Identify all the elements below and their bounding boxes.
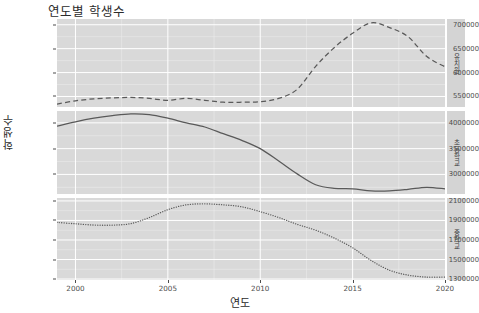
x-tick-mark xyxy=(260,280,261,283)
chart-container: 연도별 학생수 학생수 연도 유치원 초등학교 중학교 200020052010… xyxy=(0,0,479,313)
x-tick-mark xyxy=(353,280,354,283)
y-tick-mark xyxy=(53,174,56,175)
y-tick-mark xyxy=(53,148,56,149)
y-tick-label: 700000 xyxy=(427,21,479,29)
y-tick-label: 2100000 xyxy=(427,197,479,205)
y-tick-label: 1500000 xyxy=(427,256,479,264)
y-tick-label: 1700000 xyxy=(427,236,479,244)
facet-plot-area-2 xyxy=(57,198,445,280)
y-tick-mark xyxy=(53,96,56,97)
x-tick-label: 2000 xyxy=(66,284,84,293)
y-tick-mark xyxy=(53,24,56,25)
x-tick-mark xyxy=(168,280,169,283)
x-tick-mark xyxy=(75,280,76,283)
y-tick-mark xyxy=(53,220,56,221)
y-tick-mark xyxy=(53,72,56,73)
y-tick-label: 1300000 xyxy=(427,275,479,283)
facet-plot-area-0 xyxy=(57,19,445,107)
y-tick-mark xyxy=(53,200,56,201)
y-tick-mark xyxy=(53,259,56,260)
y-tick-mark xyxy=(53,279,56,280)
facet-panel-0 xyxy=(57,19,445,107)
y-tick-label: 3000000 xyxy=(427,170,479,178)
facet-panel-1 xyxy=(57,111,445,194)
series-line-0 xyxy=(57,23,445,104)
facet-panel-2 xyxy=(57,198,445,280)
y-tick-label: 650000 xyxy=(427,45,479,53)
chart-title: 연도별 학생수 xyxy=(48,1,125,20)
x-tick-label: 2020 xyxy=(436,284,454,293)
y-tick-label: 550000 xyxy=(427,92,479,100)
series-line-1 xyxy=(57,114,445,191)
x-tick-label: 2015 xyxy=(343,284,361,293)
y-tick-label: 3500000 xyxy=(427,145,479,153)
series-line-2 xyxy=(57,204,445,277)
x-tick-label: 2010 xyxy=(251,284,269,293)
y-tick-label: 4000000 xyxy=(427,119,479,127)
y-tick-label: 600000 xyxy=(427,69,479,77)
y-tick-mark xyxy=(53,239,56,240)
x-axis-title: 연도 xyxy=(0,294,479,310)
y-tick-mark xyxy=(53,122,56,123)
y-axis-title: 학생수 xyxy=(2,114,16,150)
x-tick-label: 2005 xyxy=(159,284,177,293)
facet-plot-area-1 xyxy=(57,111,445,194)
y-tick-label: 1900000 xyxy=(427,216,479,224)
y-tick-mark xyxy=(53,48,56,49)
